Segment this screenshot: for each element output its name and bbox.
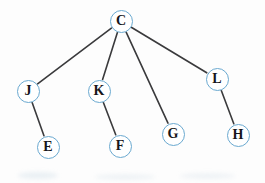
tree-diagram-canvas: CJKLEFGH — [0, 0, 265, 183]
tree-node-f[interactable]: F — [109, 135, 132, 158]
tree-node-l[interactable]: L — [206, 68, 229, 91]
tree-edge-l-h — [221, 90, 234, 124]
tree-edge-c-j — [38, 28, 112, 84]
tree-node-label-h: H — [233, 128, 244, 142]
tree-node-e[interactable]: E — [37, 136, 60, 159]
tree-node-label-j: J — [25, 84, 32, 98]
tree-edge-k-f — [103, 102, 115, 135]
edge-group — [32, 27, 234, 135]
tree-node-label-g: G — [168, 127, 179, 141]
tree-edge-j-e — [32, 102, 44, 135]
tree-node-j[interactable]: J — [17, 80, 40, 103]
tree-node-label-c: C — [116, 14, 126, 28]
tree-node-c[interactable]: C — [110, 10, 133, 33]
tree-node-label-k: K — [94, 84, 105, 98]
tree-node-label-l: L — [212, 72, 221, 86]
tree-node-label-e: E — [43, 140, 52, 154]
tree-node-k[interactable]: K — [88, 80, 111, 103]
tree-edge-c-l — [131, 27, 206, 73]
tree-node-h[interactable]: H — [227, 124, 250, 147]
tree-edge-c-k — [103, 32, 118, 79]
tree-node-g[interactable]: G — [162, 123, 185, 146]
tree-node-label-f: F — [116, 139, 125, 153]
